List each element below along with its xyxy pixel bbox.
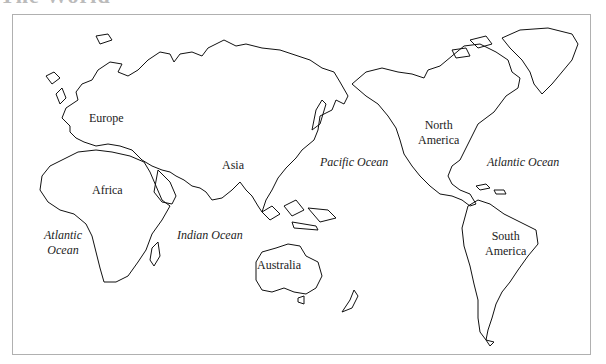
label-asia: Asia bbox=[222, 158, 244, 173]
label-atlantic-line1: Atlantic bbox=[44, 228, 82, 243]
label-south-america-line1: South bbox=[485, 229, 526, 244]
label-africa: Africa bbox=[92, 183, 123, 198]
label-australia: Australia bbox=[257, 258, 301, 273]
label-atlantic-line2: Ocean bbox=[44, 243, 82, 258]
world-outline-map bbox=[0, 0, 606, 364]
label-atlantic-ocean-east: Atlantic Ocean bbox=[487, 155, 559, 170]
greenland-outline bbox=[502, 28, 578, 94]
label-atlantic-ocean-west: Atlantic Ocean bbox=[44, 228, 82, 258]
label-south-america: South America bbox=[485, 229, 526, 259]
label-north-america-line2: America bbox=[418, 133, 459, 148]
africa-outline bbox=[40, 150, 170, 282]
label-indian-ocean: Indian Ocean bbox=[177, 228, 243, 243]
label-europe: Europe bbox=[89, 111, 124, 126]
label-north-america-line1: North bbox=[418, 118, 459, 133]
label-north-america: North America bbox=[418, 118, 459, 148]
label-pacific-ocean: Pacific Ocean bbox=[320, 155, 388, 170]
south-america-outline bbox=[462, 200, 538, 340]
label-south-america-line2: America bbox=[485, 244, 526, 259]
